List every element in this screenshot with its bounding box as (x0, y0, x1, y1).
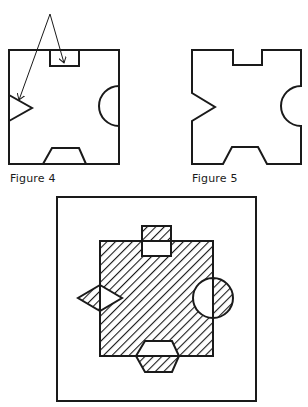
figure-4 (9, 14, 119, 164)
arrow-to-left-triangle (19, 14, 50, 100)
figure-4-left-triangle (9, 95, 32, 121)
figure-4-right-semicircle (99, 86, 119, 126)
figure-4-square (9, 50, 119, 164)
bottom-tab-hatched (136, 356, 179, 372)
arrow-to-top-notch (50, 14, 64, 63)
figure-4-caption: Figure 4 (10, 172, 56, 185)
figure-4-top-notch (50, 50, 79, 66)
top-tab-hatched (142, 226, 171, 241)
diagram-canvas (0, 0, 308, 407)
figure-5-caption: Figure 5 (192, 172, 238, 185)
top-notch-white (142, 241, 171, 256)
figure-5 (192, 50, 301, 164)
figure-6 (57, 197, 256, 401)
left-triangle-hatched (78, 285, 100, 311)
figure-5-outline (192, 50, 301, 164)
figure-4-bottom-trapezoid (43, 148, 86, 164)
right-semicircle-hatched (213, 278, 233, 318)
